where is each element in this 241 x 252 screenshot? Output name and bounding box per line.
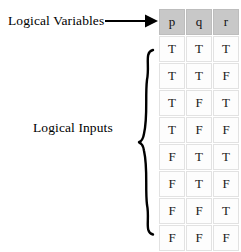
cell-q: T [186,144,212,170]
table-row: F T T [159,144,239,170]
table-row: F F T [159,198,239,224]
cell-p: F [159,198,185,224]
cell-p: F [159,171,185,197]
table-row: T F F [159,117,239,143]
cell-p: F [159,144,185,170]
logical-inputs-label: Logical Inputs [33,120,113,136]
cell-q: T [186,63,212,89]
cell-q: F [186,90,212,116]
table-row: T T F [159,63,239,89]
column-header-r: r [213,9,239,35]
cell-r: T [213,90,239,116]
cell-r: F [213,117,239,143]
right-arrow-icon [105,15,158,28]
cell-p: T [159,63,185,89]
cell-p: T [159,117,185,143]
cell-r: F [213,63,239,89]
table-row: F T F [159,171,239,197]
table-header-row: p q r [159,9,239,35]
table-body: T T T T T F T F T T F F F T T [159,36,239,251]
cell-q: F [186,225,212,251]
cell-r: T [213,144,239,170]
cell-q: F [186,117,212,143]
table-row: T T T [159,36,239,62]
logical-variables-label: Logical Variables [8,13,104,29]
cell-p: T [159,90,185,116]
cell-p: T [159,36,185,62]
table-row: F F F [159,225,239,251]
cell-r: T [213,198,239,224]
table-row: T F T [159,90,239,116]
cell-r: T [213,36,239,62]
cell-q: T [186,36,212,62]
table-header: p q r [159,9,239,35]
cell-r: F [213,171,239,197]
left-curly-brace-icon [139,50,153,234]
column-header-p: p [159,9,185,35]
cell-p: F [159,225,185,251]
cell-r: F [213,225,239,251]
truth-table: p q r T T T T T F T F T T F [158,8,240,252]
cell-q: F [186,198,212,224]
cell-q: T [186,171,212,197]
column-header-q: q [186,9,212,35]
